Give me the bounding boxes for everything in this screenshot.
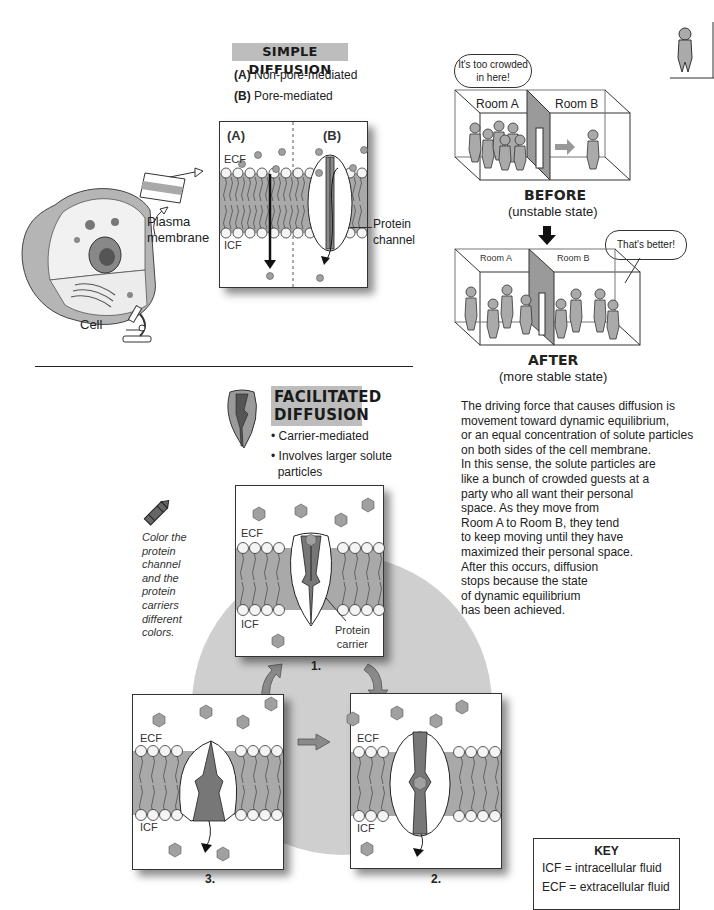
protein-carrier-label: Protein carrier [335, 623, 370, 651]
fd2-icf-label: ICF [357, 822, 375, 834]
fd1-icf-label: ICF [241, 618, 259, 630]
fd-panel-2-membrane [351, 694, 501, 868]
fd-panel-2: ECF ICF [350, 693, 502, 869]
key-icf: ICF = intracellular fluid [542, 861, 679, 875]
fd-panel-3: ECF ICF [132, 694, 284, 870]
carrier-label-line2: carrier [335, 637, 370, 651]
fd1-ecf-label: ECF [241, 527, 263, 539]
fd-panel-3-membrane [133, 695, 283, 869]
step-2-label: 2. [431, 872, 441, 886]
step-3-label: 3. [205, 872, 215, 886]
fd-panel-1: ECF ICF Protein carrier [235, 485, 384, 657]
key-box: KEY ICF = intracellular fluid ECF = extr… [533, 838, 680, 910]
carrier-label-line1: Protein [335, 623, 370, 637]
fd3-icf-label: ICF [140, 821, 158, 833]
key-ecf: ECF = extracellular fluid [542, 880, 679, 894]
fd2-ecf-label: ECF [357, 732, 379, 744]
key-title: KEY [534, 844, 679, 858]
step-1-label: 1. [311, 659, 321, 673]
fd3-ecf-label: ECF [140, 732, 162, 744]
